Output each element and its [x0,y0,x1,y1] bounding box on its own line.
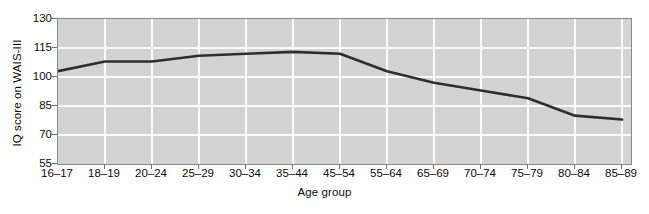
x-tick-label: 70–74 [464,166,496,180]
x-tick-label: 45–54 [323,166,355,180]
iq-by-age-line-chart: IQ score on WAIS-III 130 115 100 85 70 5… [0,0,649,214]
x-tick-label: 30–34 [229,166,261,180]
data-series-line [58,19,631,164]
y-tick-label: 130 [22,12,52,24]
plot-area [57,18,632,165]
x-tick-label: 55–64 [370,166,402,180]
x-tick-label: 75–79 [511,166,543,180]
y-tick-label: 100 [22,70,52,82]
x-tick-label: 16–17 [41,166,73,180]
y-tick-label: 115 [22,41,52,53]
series-path [58,52,622,120]
x-axis-tick-labels: 16–1718–1920–2425–2930–3435–4445–5455–64… [0,166,649,182]
x-tick-label: 35–44 [276,166,308,180]
x-tick-label: 18–19 [88,166,120,180]
x-tick-label: 80–84 [558,166,590,180]
x-axis-title: Age group [0,186,649,198]
x-tick-label: 85–89 [605,166,637,180]
y-tick-label: 70 [22,128,52,140]
x-tick-label: 25–29 [182,166,214,180]
x-tick-label: 20–24 [135,166,167,180]
x-tick-label: 65–69 [417,166,449,180]
y-tick-label: 85 [22,99,52,111]
